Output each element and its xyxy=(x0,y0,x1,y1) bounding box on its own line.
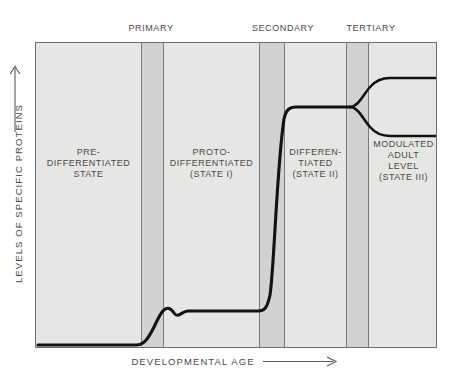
arrow-right-icon xyxy=(263,356,341,367)
panel-label-pre-differentiated: PRE- DIFFERENTIATED STATE xyxy=(36,147,141,180)
panel-label-proto-differentiated: PROTO- DIFFERENTIATED (STATE I) xyxy=(164,147,259,180)
panel-primary-transition xyxy=(141,43,163,347)
developmental-differentiation-figure: PRIMARY TRANSITION SECONDARY TRANSITION … xyxy=(0,0,461,381)
panel-label-modulated-adult: MODULATED ADULT LEVEL (STATE III) xyxy=(369,139,437,183)
x-axis-label: DEVELOPMENTAL AGE xyxy=(131,356,254,367)
panel-tertiary-transition xyxy=(346,43,368,347)
transition-header-primary-line1: PRIMARY xyxy=(96,23,206,34)
x-axis-group: DEVELOPMENTAL AGE xyxy=(35,356,437,367)
plot-area: PRE- DIFFERENTIATED STATE PROTO- DIFFERE… xyxy=(35,42,437,348)
y-axis-label: LEVELS OF SPECIFIC PROTEINS xyxy=(13,94,24,294)
panel-secondary-transition xyxy=(259,43,284,347)
panel-modulated-adult: MODULATED ADULT LEVEL (STATE III) xyxy=(368,43,437,347)
transition-header-tertiary-line1: TERTIARY xyxy=(316,23,426,34)
panel-label-differentiated: DIFFEREN- TIATED (STATE II) xyxy=(285,147,346,180)
panel-differentiated: DIFFEREN- TIATED (STATE II) xyxy=(284,43,346,347)
panel-proto-differentiated: PROTO- DIFFERENTIATED (STATE I) xyxy=(163,43,259,347)
panel-pre-differentiated: PRE- DIFFERENTIATED STATE xyxy=(36,43,141,347)
